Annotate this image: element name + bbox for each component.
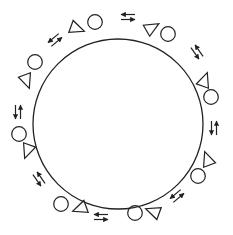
central-circle — [33, 39, 203, 209]
triangle-icon — [143, 18, 162, 36]
circle-icon — [204, 90, 219, 105]
shape-pair — [191, 149, 216, 183]
circle-icon — [28, 55, 43, 70]
triangle-icon — [69, 20, 87, 37]
shape-pairs — [12, 15, 219, 221]
shape-pair — [12, 127, 36, 161]
circle-icon — [12, 127, 27, 142]
triangle-icon — [143, 203, 161, 220]
triangle-icon — [19, 143, 36, 161]
bidirectional-arrow-icon — [191, 45, 203, 59]
bidirectional-arrow-icon — [16, 105, 21, 119]
bidirectional-arrow-icon — [212, 121, 217, 135]
triangle-icon — [18, 73, 35, 91]
bidirectional-arrow-icon — [33, 172, 45, 186]
cyclic-ring-diagram — [0, 0, 233, 235]
circle-icon — [88, 15, 103, 30]
arrow-pairs — [16, 15, 217, 220]
triangle-icon — [196, 70, 213, 88]
circle-icon — [191, 169, 206, 184]
triangle-icon — [199, 149, 216, 167]
circle-icon — [54, 197, 69, 212]
bidirectional-arrow-icon — [121, 15, 135, 20]
shape-pair — [143, 18, 175, 41]
bidirectional-arrow-icon — [48, 34, 62, 47]
shape-pair — [69, 15, 103, 38]
bidirectional-arrow-icon — [94, 215, 108, 220]
bidirectional-arrow-icon — [170, 190, 184, 203]
shape-pair — [18, 55, 42, 91]
shape-pair — [54, 197, 89, 218]
circle-icon — [161, 27, 176, 42]
